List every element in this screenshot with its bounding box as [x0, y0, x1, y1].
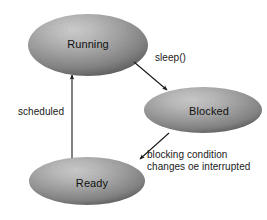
transition-label-sleep: sleep()	[155, 52, 186, 63]
state-label-running: Running	[67, 38, 109, 50]
transition-label-scheduled: scheduled	[18, 106, 64, 117]
state-node-ready[interactable]: Ready	[29, 157, 145, 205]
diagram-canvas: Running Blocked Ready sleep() blocking c…	[0, 0, 267, 220]
transition-arrow-running-to-blocked	[134, 62, 167, 90]
transition-ready-to-running[interactable]: scheduled	[18, 75, 72, 158]
transition-label-blocking-line1: blocking condition	[147, 149, 227, 160]
state-label-ready: Ready	[76, 177, 109, 189]
state-node-blocked[interactable]: Blocked	[144, 87, 262, 133]
transition-label-blocking-line2: changes oe interrupted	[147, 161, 250, 172]
state-label-blocked: Blocked	[189, 105, 229, 117]
transition-blocked-to-ready[interactable]: blocking condition changes oe interrupte…	[140, 133, 250, 172]
state-diagram: Running Blocked Ready sleep() blocking c…	[0, 0, 267, 220]
state-node-running[interactable]: Running	[28, 14, 148, 76]
